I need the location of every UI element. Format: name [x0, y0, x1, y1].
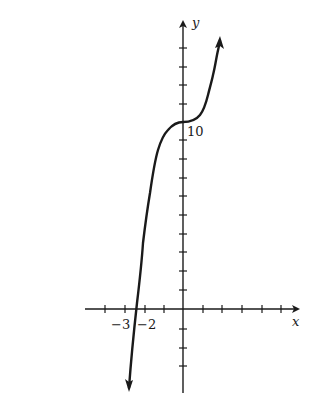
x-axis-label: x — [292, 314, 300, 329]
y-axis — [179, 22, 187, 393]
x-tick-label-minus-2: −2 — [137, 317, 156, 332]
y-tick-label-10: 10 — [187, 124, 204, 139]
cubic-curve — [129, 41, 220, 388]
y-axis-label: y — [191, 15, 200, 30]
cubic-graph: y x 10 −3 −2 — [0, 0, 316, 418]
x-axis — [85, 305, 298, 313]
x-tick-label-minus-3: −3 — [111, 317, 130, 332]
